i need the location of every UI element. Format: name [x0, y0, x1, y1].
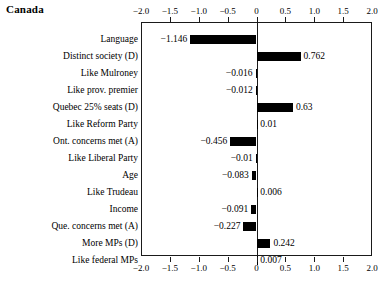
- axis-tick: [257, 257, 258, 262]
- value-label: −0.083: [222, 169, 249, 182]
- value-label: −0.227: [214, 220, 241, 233]
- bar: [256, 69, 257, 78]
- axis-tick: [314, 257, 315, 262]
- bar: [257, 52, 301, 61]
- axis-tick-label: −1.5: [162, 263, 178, 273]
- category-label: Distinct society (D): [63, 50, 138, 63]
- axis-tick-label: −1.5: [162, 6, 178, 16]
- value-label: −0.01: [231, 152, 253, 165]
- bar: [190, 35, 256, 44]
- value-label: −1.146: [161, 33, 188, 46]
- bar: [257, 120, 258, 129]
- bar: [243, 222, 256, 231]
- bar-row: Quebec 25% seats (D)0.63: [0, 99, 384, 116]
- axis-tick-label: 1.5: [338, 263, 349, 273]
- axis-tick: [285, 257, 286, 262]
- axis-tick-label: 1.0: [309, 263, 320, 273]
- axis-tick-label: −1.0: [191, 263, 207, 273]
- bar-row: Like Mulroney−0.016: [0, 65, 384, 82]
- bar-row: Distinct society (D)0.762: [0, 48, 384, 65]
- category-label: Que. concerns met (A): [51, 220, 138, 233]
- axis-tick-label: −1.0: [191, 6, 207, 16]
- bar: [252, 171, 257, 180]
- bar: [230, 137, 256, 146]
- axis-tick-label: −2.0: [133, 263, 149, 273]
- x-axis-bottom: −2.0−1.5−1.0−0.500.51.01.52.0: [141, 257, 372, 271]
- bar: [257, 103, 293, 112]
- bar-row: Like prov. premier−0.012: [0, 82, 384, 99]
- bar-row: Like Liberal Party−0.01: [0, 150, 384, 167]
- axis-tick: [228, 257, 229, 262]
- axis-tick-label: 0.5: [280, 263, 291, 273]
- category-label: Quebec 25% seats (D): [53, 101, 138, 114]
- value-label: 0.006: [260, 186, 281, 199]
- bar-row: Ont. concerns met (A)−0.456: [0, 133, 384, 150]
- category-label: Like Reform Party: [67, 118, 138, 131]
- bar-row: Language−1.146: [0, 31, 384, 48]
- axis-tick-label: 2.0: [366, 6, 377, 16]
- axis-tick: [170, 257, 171, 262]
- bar: [257, 188, 258, 197]
- bar-row: Like Trudeau0.006: [0, 184, 384, 201]
- bar-chart: Canada −2.0−1.5−1.0−0.500.51.01.52.0 Lan…: [0, 0, 384, 285]
- axis-tick-label: 1.0: [309, 6, 320, 16]
- category-label: Ont. concerns met (A): [53, 135, 138, 148]
- bar: [256, 154, 257, 163]
- category-label: Like federal MPs: [72, 254, 138, 267]
- category-label: More MPs (D): [82, 237, 138, 250]
- axis-tick-label: −2.0: [133, 6, 149, 16]
- bar-row: Que. concerns met (A)−0.227: [0, 218, 384, 235]
- value-label: −0.012: [226, 84, 253, 97]
- bar: [256, 86, 257, 95]
- value-label: 0.63: [296, 101, 313, 114]
- axis-tick-label: 2.0: [366, 263, 377, 273]
- bar-row: Age−0.083: [0, 167, 384, 184]
- category-label: Language: [101, 33, 138, 46]
- bar: [251, 205, 256, 214]
- value-label: −0.456: [200, 135, 227, 148]
- value-label: −0.091: [222, 203, 249, 216]
- bar-row: Income−0.091: [0, 201, 384, 218]
- axis-tick-label: −0.5: [219, 6, 235, 16]
- category-label: Like Trudeau: [87, 186, 138, 199]
- axis-tick-label: −0.5: [219, 263, 235, 273]
- value-label: −0.016: [226, 67, 253, 80]
- value-label: 0.762: [304, 50, 325, 63]
- axis-tick-label: 1.5: [338, 6, 349, 16]
- category-label: Like prov. premier: [67, 84, 138, 97]
- category-label: Income: [110, 203, 139, 216]
- bar-row: Like Reform Party0.01: [0, 116, 384, 133]
- bar: [257, 239, 271, 248]
- axis-tick-label: 0: [254, 263, 259, 273]
- chart-title: Canada: [6, 3, 44, 15]
- x-axis-top: −2.0−1.5−1.0−0.500.51.01.52.0: [141, 8, 372, 22]
- axis-tick-label: 0: [254, 6, 259, 16]
- axis-tick-label: 0.5: [280, 6, 291, 16]
- category-label: Like Liberal Party: [68, 152, 138, 165]
- value-label: 0.242: [273, 237, 294, 250]
- axis-tick: [199, 257, 200, 262]
- value-label: 0.01: [260, 118, 277, 131]
- axis-tick: [343, 257, 344, 262]
- bar-row: More MPs (D)0.242: [0, 235, 384, 252]
- category-label: Like Mulroney: [81, 67, 138, 80]
- category-label: Age: [122, 169, 138, 182]
